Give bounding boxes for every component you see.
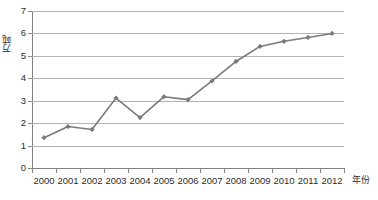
y-tick-mark <box>28 123 32 124</box>
y-tick-mark <box>28 56 32 57</box>
data-point-marker <box>329 31 334 36</box>
y-tick-mark <box>28 78 32 79</box>
y-tick-mark <box>28 33 32 34</box>
y-tick-mark <box>28 101 32 102</box>
line-chart: 万吨 01234567 2000200120022003200420052006… <box>0 0 378 200</box>
data-point-marker <box>41 135 46 140</box>
y-tick-mark <box>28 11 32 12</box>
series-line <box>44 33 332 137</box>
y-tick-mark <box>28 146 32 147</box>
data-point-marker <box>305 35 310 40</box>
data-point-marker <box>281 39 286 44</box>
data-point-marker <box>65 124 70 129</box>
data-series <box>0 0 378 200</box>
y-tick-mark <box>28 168 32 169</box>
